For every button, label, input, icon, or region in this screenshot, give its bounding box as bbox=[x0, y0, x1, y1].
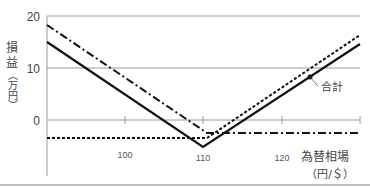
x-tick-label-110: 110 bbox=[196, 153, 210, 163]
x-tick-label-100: 100 bbox=[117, 150, 132, 160]
y-tick-label-10: 10 bbox=[27, 62, 41, 76]
series-total-line bbox=[47, 42, 360, 147]
y-label-char-2: 益 bbox=[6, 56, 18, 70]
gridlines bbox=[47, 16, 360, 120]
x-tick-label-120: 120 bbox=[274, 153, 289, 163]
payoff-chart: 20 10 0 損 益 （万円） 100 110 120 為替相場 （円/＄） … bbox=[0, 0, 370, 187]
y-tick-label-20: 20 bbox=[27, 10, 41, 24]
y-tick-label-0: 0 bbox=[33, 114, 40, 128]
annotation-total-label: 合計 bbox=[321, 80, 343, 94]
annotation-leader bbox=[310, 77, 318, 86]
y-label-char-1: 損 bbox=[6, 40, 18, 55]
x-axis-label-line1: 為替相場 bbox=[301, 150, 349, 164]
y-label-unit: （万円） bbox=[7, 70, 18, 110]
x-axis-label-line2: （円/＄） bbox=[306, 167, 354, 181]
